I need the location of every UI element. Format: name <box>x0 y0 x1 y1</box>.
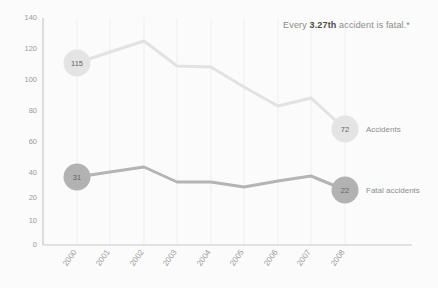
x-tick-label: 2005 <box>228 248 246 268</box>
annotation-emphasis: 3.27th <box>310 20 337 30</box>
x-axis-ticks: 2000 2001 2002 2003 2004 2005 2006 2007 … <box>61 248 347 268</box>
legend-label-accidents: Accidents <box>366 125 401 134</box>
marker-accidents-2000[interactable]: 115 <box>64 50 91 77</box>
y-tick-label: 140 <box>24 13 37 22</box>
y-tick-label: 100 <box>24 75 37 84</box>
y-tick-label: 120 <box>24 44 37 53</box>
bubble-value-label: 31 <box>73 173 81 182</box>
y-tick-label: 80 <box>29 106 37 115</box>
y-tick-label: 60 <box>29 137 37 146</box>
y-axis-ticks: 140 120 100 80 60 40 20 10 0 <box>24 13 37 249</box>
bubble-value-label: 115 <box>71 59 83 68</box>
legend-label-fatal-accidents: Fatal accidents <box>366 186 420 195</box>
gridlines <box>77 18 345 245</box>
marker-accidents-2008[interactable]: 72 <box>332 116 359 143</box>
bubble-value-label: 22 <box>341 186 349 195</box>
x-tick-label: 2001 <box>94 248 112 268</box>
x-tick-label: 2002 <box>128 248 146 268</box>
y-tick-label: 20 <box>29 193 37 202</box>
x-tick-label: 2004 <box>195 248 213 268</box>
annotation-prefix: Every <box>283 20 307 30</box>
x-tick-label: 2007 <box>295 248 313 268</box>
bubble-value-label: 72 <box>341 125 349 134</box>
chart-page: 140 120 100 80 60 40 20 10 0 2000 2001 2… <box>0 0 438 288</box>
y-tick-label: 40 <box>29 168 37 177</box>
fatality-ratio-annotation: Every 3.27th accident is fatal.* <box>283 20 410 30</box>
y-tick-label: 0 <box>33 240 37 249</box>
x-tick-label: 2006 <box>262 248 280 268</box>
accidents-line-chart: 140 120 100 80 60 40 20 10 0 2000 2001 2… <box>0 0 438 288</box>
marker-fatal-accidents-2000[interactable]: 31 <box>64 164 91 191</box>
x-tick-label: 2008 <box>329 248 347 268</box>
y-tick-label: 10 <box>29 216 37 225</box>
x-tick-label: 2003 <box>161 248 179 268</box>
marker-fatal-accidents-2008[interactable]: 22 <box>332 177 359 204</box>
annotation-suffix: accident is fatal.* <box>339 20 410 30</box>
x-tick-label: 2000 <box>61 248 79 268</box>
